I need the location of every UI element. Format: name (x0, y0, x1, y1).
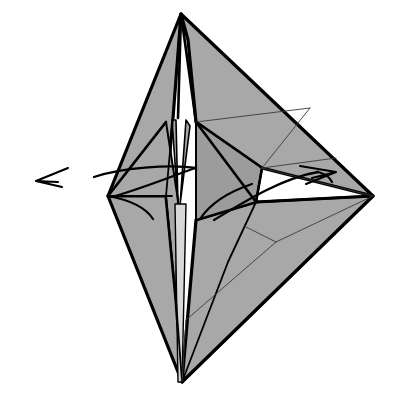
origami-diagram: Origami folding step diagram (0, 0, 396, 402)
origami-figure-container: Origami folding step diagram (0, 0, 396, 402)
